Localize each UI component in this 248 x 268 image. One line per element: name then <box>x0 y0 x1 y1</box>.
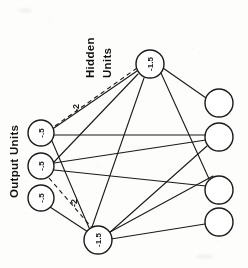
output-units-group: -.5 -.5 -.5 <box>28 120 54 211</box>
edge-h2-i3 <box>110 176 213 232</box>
edge-weight-label-2: -2 <box>69 199 79 207</box>
edge-h1-o1 <box>54 71 137 128</box>
edge-o2-i2 <box>54 140 206 163</box>
edge-o1-h2 <box>52 141 90 230</box>
network-graph-svg: -.5 -.5 -.5 -1.5 -1.5 -2 -2 Hidden Units… <box>0 0 248 268</box>
hidden-units-label-line1: Hidden <box>84 37 96 78</box>
edge-weight-label-1: -2 <box>71 104 81 112</box>
group-labels: Hidden Units Output Units <box>8 37 113 198</box>
output-unit-3-label: -.5 <box>37 193 46 203</box>
input-unit-4[interactable] <box>205 208 233 236</box>
edge-o2-i3 <box>54 170 206 186</box>
output-unit-2-label: -.5 <box>37 161 46 171</box>
edge-h1-o2 <box>54 74 138 162</box>
edge-h1-i1 <box>163 68 206 98</box>
input-units-group <box>205 89 233 236</box>
input-unit-2[interactable] <box>205 123 233 151</box>
edge-group-solid <box>50 68 213 239</box>
network-diagram-figure: -.5 -.5 -.5 -1.5 -1.5 -2 -2 Hidden Units… <box>0 0 248 268</box>
edge-h1-o3 <box>92 78 144 227</box>
edge-h2-i2 <box>108 146 207 234</box>
edge-h2-i4 <box>111 224 205 239</box>
edge-weight-labels: -2 -2 <box>69 104 81 207</box>
edge-group-dashed <box>49 68 137 229</box>
output-unit-1-label: -.5 <box>37 128 46 138</box>
hidden-unit-2-label: -1.5 <box>94 233 103 247</box>
input-unit-3[interactable] <box>205 176 233 204</box>
input-unit-1[interactable] <box>205 89 233 117</box>
hidden-units-label-line2: Units <box>101 48 113 78</box>
hidden-unit-1-label: -1.5 <box>146 57 155 71</box>
output-units-label: Output Units <box>8 125 20 198</box>
